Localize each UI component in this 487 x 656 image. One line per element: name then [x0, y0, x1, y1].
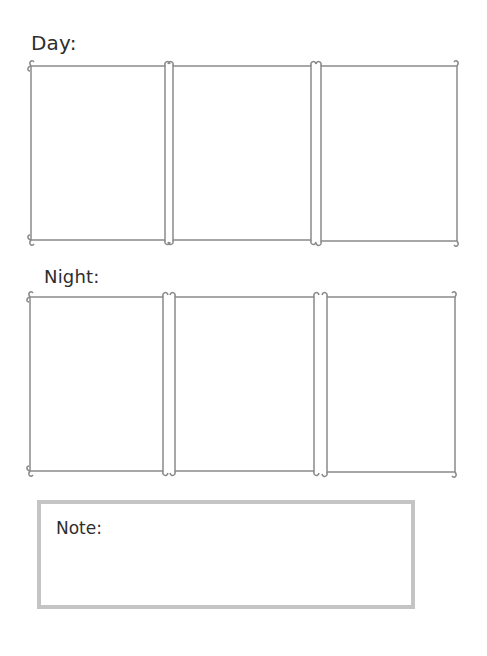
- day-panel-3[interactable]: [311, 61, 458, 246]
- night-panel-1[interactable]: [27, 292, 163, 476]
- night-panel-3[interactable]: [314, 292, 456, 477]
- note-box[interactable]: Note:: [37, 500, 415, 609]
- day-panel-2[interactable]: [165, 62, 311, 245]
- night-panel-2[interactable]: [163, 293, 314, 476]
- day-panel-1[interactable]: [28, 61, 165, 245]
- note-label: Note:: [56, 518, 102, 538]
